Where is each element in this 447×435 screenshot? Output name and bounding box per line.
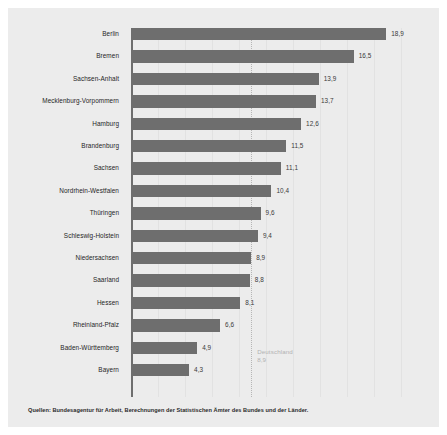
bar [131,297,240,309]
bar-row: Sachsen11,1 [0,162,431,184]
category-label: Sachsen [0,162,119,174]
bar-value-label: 4,9 [202,342,211,354]
bar-value-label: 6,6 [225,319,234,331]
bar-row: Brandenburg11,5 [0,140,431,162]
bar-row: Schleswig-Holstein9,4 [0,230,431,252]
bar-value-label: 11,1 [286,162,298,174]
bar [131,118,301,130]
bar [131,50,354,62]
category-label: Brandenburg [0,140,119,152]
category-label: Sachsen-Anhalt [0,73,119,85]
bar-row: Rheinland-Pfalz6,6 [0,319,431,341]
bar [131,230,258,242]
category-label: Hessen [0,297,119,309]
category-label: Bayern [0,364,119,376]
bar-value-label: 13,9 [324,73,337,85]
bar-value-label: 8,1 [245,297,254,309]
bar [131,207,261,219]
bar [131,342,197,354]
bar-row: Thüringen9,6 [0,207,431,229]
bar [131,274,250,286]
bar-value-label: 8,9 [256,252,265,264]
category-label: Saarland [0,274,119,286]
bar [131,364,189,376]
bar [131,140,286,152]
bar-row: Bremen16,5 [0,50,431,72]
bar-row: Hamburg12,6 [0,118,431,140]
bar-row: Niedersachsen8,9 [0,252,431,274]
bar [131,95,316,107]
category-label: Niedersachsen [0,252,119,264]
source-note: Quellen: Bundesagentur für Arbeit, Berec… [28,406,428,414]
category-label: Schleswig-Holstein [0,230,119,242]
bar-row: Nordrhein-Westfalen10,4 [0,185,431,207]
bar-value-label: 10,4 [276,185,289,197]
bar [131,73,319,85]
category-label: Hamburg [0,118,119,130]
bar-value-label: 18,9 [391,28,404,40]
category-label: Bremen [0,50,119,62]
category-label: Thüringen [0,207,119,219]
bar-value-label: 9,6 [266,207,275,219]
bar [131,185,271,197]
category-label: Mecklenburg-Vorpommern [0,95,119,107]
bar-row: Bayern4,3 [0,364,431,386]
bar-row: Baden-Württemberg4,9 [0,342,431,364]
bar [131,28,386,40]
bar-value-label: 16,5 [359,50,372,62]
category-label: Berlin [0,28,119,40]
bar-row: Berlin18,9 [0,28,431,50]
bar-row: Hessen8,1 [0,297,431,319]
bar-row: Sachsen-Anhalt13,9 [0,73,431,95]
bar-value-label: 8,8 [255,274,264,286]
bar-value-label: 9,4 [263,230,272,242]
bar-value-label: 11,5 [291,140,303,152]
chart-figure: Deutschland 8,9 Berlin18,9Bremen16,5Sach… [0,0,447,435]
category-label: Rheinland-Pfalz [0,319,119,331]
bar [131,252,251,264]
bar-row: Saarland8,8 [0,274,431,296]
category-label: Baden-Württemberg [0,342,119,354]
category-label: Nordrhein-Westfalen [0,185,119,197]
bar-value-label: 4,3 [194,364,203,376]
bar-row: Mecklenburg-Vorpommern13,7 [0,95,431,117]
bar-value-label: 12,6 [306,118,319,130]
bar-value-label: 13,7 [321,95,334,107]
bar [131,319,220,331]
bar [131,162,281,174]
